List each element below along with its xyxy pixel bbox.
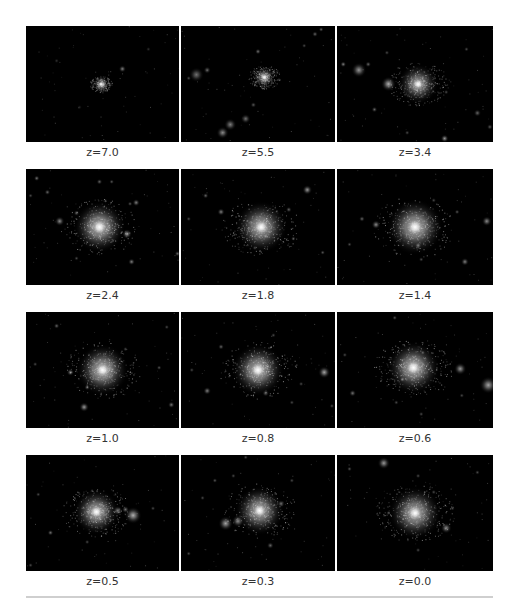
simulation-panel — [26, 26, 179, 142]
simulation-panel — [26, 312, 179, 428]
panel-caption: z=5.5 — [181, 146, 335, 160]
panel-caption: z=0.0 — [337, 575, 493, 589]
figure-row-1: z=7.0 z=5.5 z=3.4 — [26, 26, 493, 169]
simulation-panel — [181, 312, 335, 428]
simulation-panel — [337, 312, 493, 428]
simulation-panel — [26, 169, 179, 285]
simulation-panel — [181, 26, 335, 142]
simulation-panel — [337, 169, 493, 285]
panel-caption: z=7.0 — [26, 146, 179, 160]
panel-caption: z=1.4 — [337, 289, 493, 303]
panel-caption: z=0.3 — [181, 575, 335, 589]
panel-caption: z=0.6 — [337, 432, 493, 446]
panel-caption: z=3.4 — [337, 146, 493, 160]
simulation-panel — [181, 169, 335, 285]
figure-row-2: z=2.4 z=1.8 z=1.4 — [26, 169, 493, 312]
panel-caption: z=2.4 — [26, 289, 179, 303]
panel-caption: z=0.8 — [181, 432, 335, 446]
horizontal-rule — [26, 596, 493, 598]
figure-row-3: z=1.0 z=0.8 z=0.6 — [26, 312, 493, 455]
panel-caption: z=1.0 — [26, 432, 179, 446]
simulation-panel — [337, 455, 493, 571]
simulation-panel — [337, 26, 493, 142]
redshift-evolution-figure: z=7.0 z=5.5 z=3.4 z=2.4 z=1.8 z=1.4 z=1.… — [26, 26, 493, 598]
panel-caption: z=1.8 — [181, 289, 335, 303]
figure-row-4: z=0.5 z=0.3 z=0.0 — [26, 455, 493, 598]
simulation-panel — [26, 455, 179, 571]
simulation-panel — [181, 455, 335, 571]
panel-caption: z=0.5 — [26, 575, 179, 589]
